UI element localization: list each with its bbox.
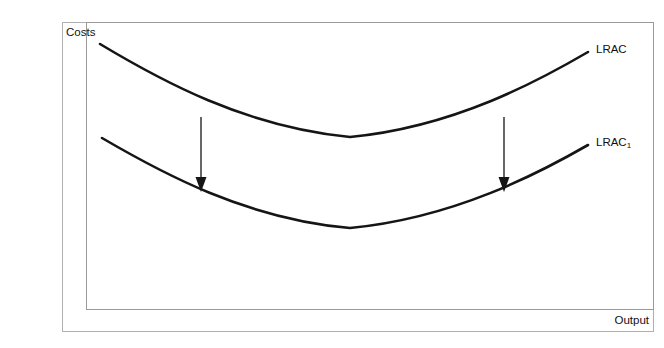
lrac-label-text: LRAC	[596, 43, 627, 55]
lrac1-label-text: LRAC	[596, 136, 627, 148]
lrac-curve-label: LRAC	[596, 44, 627, 56]
lrac-curve	[100, 44, 588, 137]
curves-svg	[0, 0, 664, 348]
shift-arrow-right	[499, 117, 510, 192]
lrac1-label-subscript: 1	[627, 141, 631, 150]
diagram-canvas: Costs Output LRAC LRAC1	[0, 0, 664, 348]
shift-arrow-left	[196, 117, 207, 192]
lrac1-curve	[102, 138, 588, 228]
lrac1-curve-label: LRAC1	[596, 137, 631, 149]
